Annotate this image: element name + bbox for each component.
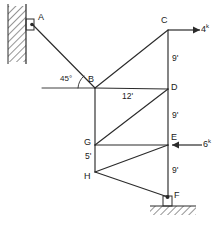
node-label-E: E bbox=[171, 133, 177, 142]
load-label-E: 6k bbox=[203, 138, 211, 149]
ground-support bbox=[150, 195, 196, 215]
node-label-C: C bbox=[161, 16, 168, 25]
member-G-E bbox=[95, 145, 168, 172]
angle-label-45: 45° bbox=[60, 75, 72, 83]
member-B-D bbox=[95, 88, 168, 89]
truss-diagram-canvas: A B C D E F H G 9' 12' 9' 9' 5' 45° 4k 6… bbox=[0, 0, 220, 225]
dimension-label-CD: 9' bbox=[172, 54, 178, 63]
node-label-B: B bbox=[88, 75, 94, 84]
load-label-C: 4k bbox=[201, 23, 209, 34]
node-label-A: A bbox=[38, 13, 44, 22]
member-B-C bbox=[95, 30, 168, 88]
load-unit-E: k bbox=[208, 138, 211, 144]
dimension-label-BD: 12' bbox=[122, 92, 133, 101]
member-G-F bbox=[95, 172, 168, 197]
dimension-label-EF: 9' bbox=[172, 166, 178, 175]
node-label-D: D bbox=[171, 83, 178, 92]
truss-vector-graphic bbox=[0, 0, 220, 225]
truss-members bbox=[33, 25, 168, 197]
angle-arc-45 bbox=[78, 76, 84, 88]
wall-support bbox=[8, 4, 34, 64]
node-label-G: H bbox=[84, 172, 91, 181]
load-unit-C: k bbox=[206, 23, 209, 29]
node-label-H: G bbox=[84, 138, 91, 147]
node-label-F: F bbox=[174, 191, 180, 200]
dimension-label-DE: 9' bbox=[172, 111, 178, 120]
dimension-label-HG: 5' bbox=[85, 152, 91, 161]
